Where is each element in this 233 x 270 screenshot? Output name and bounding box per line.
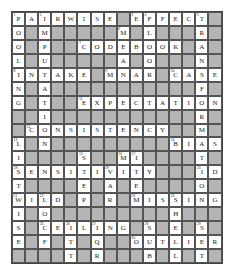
- letter-cell[interactable]: I: [182, 137, 195, 151]
- letter-cell[interactable]: N: [130, 124, 143, 138]
- letter-cell[interactable]: P: [104, 96, 117, 110]
- letter-cell[interactable]: I: [143, 193, 156, 207]
- letter-cell[interactable]: 15S: [77, 151, 90, 165]
- letter-cell[interactable]: R: [91, 249, 104, 263]
- letter-cell[interactable]: 13L: [12, 137, 25, 151]
- letter-cell[interactable]: G: [12, 96, 25, 110]
- letter-cell[interactable]: W: [64, 12, 77, 26]
- letter-cell[interactable]: M: [195, 124, 208, 138]
- letter-cell[interactable]: A: [104, 179, 117, 193]
- letter-cell[interactable]: O: [12, 40, 25, 54]
- letter-cell[interactable]: 9M: [104, 68, 117, 82]
- letter-cell[interactable]: O: [38, 207, 51, 221]
- letter-cell[interactable]: S: [91, 124, 104, 138]
- letter-cell[interactable]: N: [104, 221, 117, 235]
- letter-cell[interactable]: X: [91, 96, 104, 110]
- letter-cell[interactable]: N: [25, 68, 38, 82]
- letter-cell[interactable]: E: [77, 179, 90, 193]
- letter-cell[interactable]: 22L: [38, 193, 51, 207]
- letter-cell[interactable]: R: [143, 68, 156, 82]
- letter-cell[interactable]: 28S: [143, 221, 156, 235]
- letter-cell[interactable]: I: [91, 165, 104, 179]
- letter-cell[interactable]: A: [195, 137, 208, 151]
- letter-cell[interactable]: E: [117, 40, 130, 54]
- letter-cell[interactable]: S: [51, 165, 64, 179]
- letter-cell[interactable]: A: [182, 68, 195, 82]
- letter-cell[interactable]: N: [38, 137, 51, 151]
- letter-cell[interactable]: N: [38, 165, 51, 179]
- letter-cell[interactable]: O: [156, 40, 169, 54]
- letter-cell[interactable]: E: [51, 221, 64, 235]
- letter-cell[interactable]: T: [12, 179, 25, 193]
- letter-cell[interactable]: S: [156, 193, 169, 207]
- letter-cell[interactable]: C: [143, 124, 156, 138]
- letter-cell[interactable]: A: [38, 82, 51, 96]
- letter-cell[interactable]: T: [143, 96, 156, 110]
- letter-cell[interactable]: O: [38, 124, 51, 138]
- letter-cell[interactable]: A: [156, 96, 169, 110]
- letter-cell[interactable]: B: [130, 40, 143, 54]
- letter-cell[interactable]: 5T: [195, 12, 208, 26]
- letter-cell[interactable]: G: [208, 193, 221, 207]
- letter-cell[interactable]: I: [64, 165, 77, 179]
- letter-cell[interactable]: G: [117, 221, 130, 235]
- letter-cell[interactable]: T: [195, 249, 208, 263]
- letter-cell[interactable]: M: [38, 26, 51, 40]
- letter-cell[interactable]: O: [12, 26, 25, 40]
- letter-cell[interactable]: A: [25, 12, 38, 26]
- letter-cell[interactable]: D: [208, 165, 221, 179]
- letter-cell[interactable]: E: [130, 179, 143, 193]
- letter-cell[interactable]: I: [25, 193, 38, 207]
- letter-cell[interactable]: U: [143, 235, 156, 249]
- letter-cell[interactable]: B: [143, 249, 156, 263]
- letter-cell[interactable]: 4F: [143, 12, 156, 26]
- letter-cell[interactable]: R: [195, 26, 208, 40]
- letter-cell[interactable]: O: [91, 40, 104, 54]
- letter-cell[interactable]: I: [12, 151, 25, 165]
- letter-cell[interactable]: E: [208, 68, 221, 82]
- letter-cell[interactable]: E: [12, 235, 25, 249]
- letter-cell[interactable]: 18S: [12, 165, 25, 179]
- letter-cell[interactable]: 8I: [12, 68, 25, 82]
- letter-cell[interactable]: F: [38, 235, 51, 249]
- letter-cell[interactable]: I: [182, 235, 195, 249]
- letter-cell[interactable]: 21W: [12, 193, 25, 207]
- letter-cell[interactable]: L: [169, 249, 182, 263]
- letter-cell[interactable]: I: [182, 193, 195, 207]
- letter-cell[interactable]: 29S: [195, 221, 208, 235]
- letter-cell[interactable]: R: [195, 110, 208, 124]
- letter-cell[interactable]: K: [169, 40, 182, 54]
- letter-cell[interactable]: U: [38, 54, 51, 68]
- letter-cell[interactable]: E: [104, 12, 117, 26]
- letter-cell[interactable]: E: [25, 165, 38, 179]
- letter-cell[interactable]: I: [117, 165, 130, 179]
- letter-cell[interactable]: 30O: [130, 235, 143, 249]
- letter-cell[interactable]: 27I: [91, 221, 104, 235]
- letter-cell[interactable]: 11E: [77, 96, 90, 110]
- letter-cell[interactable]: 10C: [169, 68, 182, 82]
- letter-cell[interactable]: N: [208, 96, 221, 110]
- letter-cell[interactable]: A: [130, 68, 143, 82]
- letter-cell[interactable]: F: [156, 12, 169, 26]
- letter-cell[interactable]: 16M: [117, 151, 130, 165]
- letter-cell[interactable]: O: [143, 54, 156, 68]
- letter-cell[interactable]: 17I: [130, 151, 143, 165]
- letter-cell[interactable]: A: [117, 54, 130, 68]
- letter-cell[interactable]: I: [77, 124, 90, 138]
- letter-cell[interactable]: 23M: [130, 193, 143, 207]
- letter-cell[interactable]: S: [64, 124, 77, 138]
- letter-cell[interactable]: D: [104, 40, 117, 54]
- letter-cell[interactable]: 7C: [77, 40, 90, 54]
- letter-cell[interactable]: L: [169, 235, 182, 249]
- letter-cell[interactable]: P: [38, 40, 51, 54]
- letter-cell[interactable]: I: [38, 110, 51, 124]
- letter-cell[interactable]: C: [130, 96, 143, 110]
- letter-cell[interactable]: 25C: [38, 221, 51, 235]
- letter-cell[interactable]: O: [143, 40, 156, 54]
- letter-cell[interactable]: T: [64, 249, 77, 263]
- letter-cell[interactable]: E: [169, 221, 182, 235]
- letter-cell[interactable]: Q: [91, 235, 104, 249]
- letter-cell[interactable]: R: [51, 12, 64, 26]
- letter-cell[interactable]: T: [130, 165, 143, 179]
- letter-cell[interactable]: E: [169, 12, 182, 26]
